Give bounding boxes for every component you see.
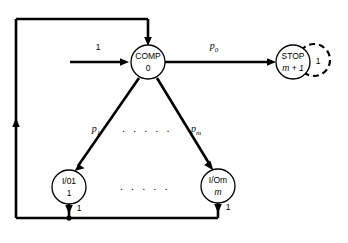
io-last-node-circle[interactable] [201, 169, 235, 203]
entry-weight-label: 1 [96, 42, 101, 52]
p0-label: p0 [209, 40, 219, 53]
pm-label: pm [190, 123, 201, 136]
iom-return-arrowhead [214, 204, 222, 213]
comp-to-stop-arrowhead [267, 58, 276, 66]
entry-arrow-group: 1 [70, 42, 129, 66]
stop-node-label-index: m + 1 [282, 63, 304, 73]
io-last-node[interactable]: I/Om m [201, 169, 235, 203]
entry-arrowhead [120, 58, 129, 66]
io1-return-weight-label: 1 [77, 203, 82, 213]
io-first-node-label-primary: I/01 [62, 176, 76, 186]
feedback-loop-path [12, 19, 218, 218]
iom-return-edge: 1 [214, 202, 230, 218]
comp-to-io1-arrowhead [75, 164, 85, 171]
comp-node-label-index: 0 [146, 63, 151, 73]
pm-subscript: m [196, 128, 201, 136]
io-first-node-label-index: 1 [67, 188, 72, 198]
io-first-node[interactable]: I/01 1 [52, 170, 86, 204]
p1-subscript: 1 [97, 128, 101, 136]
lower-ellipsis: . . . . . [120, 180, 170, 192]
comp-node-circle[interactable] [131, 45, 165, 79]
comp-to-iom-arrowhead [204, 161, 213, 171]
upper-ellipsis: . . . . . [122, 122, 172, 134]
diagram-canvas: 1 p0 p1 pm . . . . . [0, 0, 348, 243]
iom-return-weight-label: 1 [226, 202, 231, 212]
io-last-node-label-primary: I/Om [209, 175, 227, 185]
io1-return-arrowhead [65, 205, 73, 214]
stop-node[interactable]: STOP m + 1 [276, 45, 310, 79]
comp-node[interactable]: COMP 0 [131, 45, 165, 79]
io-first-node-circle[interactable] [52, 170, 86, 204]
p0-subscript: 0 [215, 45, 219, 53]
io1-rail-junction-dot [66, 215, 71, 220]
state-transition-diagram: 1 p0 p1 pm . . . . . [0, 0, 348, 243]
stop-self-loop-label: 1 [316, 56, 321, 66]
feedback-left-rail-arrowhead [12, 118, 20, 127]
p1-label: p1 [91, 123, 101, 136]
comp-to-stop-edge: p0 [165, 40, 276, 66]
io-last-node-label-index: m [214, 187, 221, 197]
comp-node-label-primary: COMP [135, 51, 161, 61]
stop-node-label-primary: STOP [282, 51, 305, 61]
stop-node-circle[interactable] [276, 45, 310, 79]
